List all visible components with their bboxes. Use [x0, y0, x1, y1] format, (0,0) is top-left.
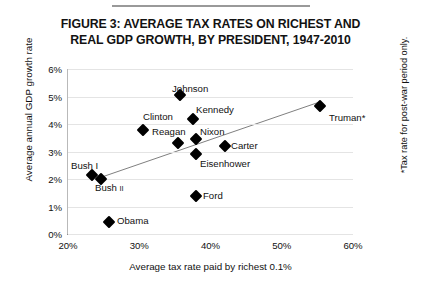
point-label-carter: Carter	[231, 140, 258, 151]
x-tick-label: 30%	[130, 240, 149, 251]
x-tick-label: 40%	[201, 240, 220, 251]
figure-title: FIGURE 3: AVERAGE TAX RATES ON RICHEST A…	[20, 16, 401, 48]
x-tick-label: 50%	[272, 240, 291, 251]
gridline-y-4	[68, 124, 353, 125]
footnote-post-war: *Tax rate for post-war period only.	[399, 25, 409, 185]
gridline-y-1	[68, 207, 353, 208]
point-label-ford: Ford	[203, 190, 223, 201]
gridline-y-6	[68, 69, 353, 70]
y-tick-label: 4%	[36, 119, 62, 130]
y-tick-label: 0%	[36, 229, 62, 240]
x-axis-title: Average tax rate paid by richest 0.1%	[68, 261, 353, 272]
y-tick-label: 3%	[36, 146, 62, 157]
top-divider-rule	[112, 5, 310, 7]
point-label-bush-ii: Bush II	[95, 182, 124, 194]
figure-3-chart: FIGURE 3: AVERAGE TAX RATES ON RICHEST A…	[0, 0, 421, 288]
gridline-y-3	[68, 152, 353, 153]
y-tick-label: 1%	[36, 201, 62, 212]
y-axis-title: Average annual GDP growth rate	[23, 30, 34, 190]
gridline-y-0	[68, 234, 353, 235]
y-tick-label: 2%	[36, 174, 62, 185]
y-tick-label: 6%	[36, 64, 62, 75]
x-tick-label: 20%	[58, 240, 77, 251]
gridline-y-5	[68, 97, 353, 98]
figure-title-line-1: FIGURE 3: AVERAGE TAX RATES ON RICHEST A…	[20, 16, 401, 32]
point-label-kennedy: Kennedy	[196, 104, 234, 115]
y-axis-tick-labels: 0%1%2%3%4%5%6%	[36, 69, 62, 234]
x-tick-label: 60%	[343, 240, 362, 251]
figure-title-line-2: REAL GDP GROWTH, BY PRESIDENT, 1947-2010	[20, 32, 401, 48]
point-label-truman: Truman*	[329, 112, 365, 123]
y-tick-label: 5%	[36, 91, 62, 102]
point-label-reagan: Reagan	[152, 126, 186, 137]
point-label-obama: Obama	[117, 215, 148, 226]
plot-area	[68, 69, 353, 234]
point-label-eisenhower: Eisenhower	[200, 158, 250, 169]
x-axis-tick-labels: 20%30%40%50%60%	[68, 240, 353, 254]
point-label-nixon: Nixon	[200, 126, 225, 137]
point-label-bush-i: Bush I	[71, 160, 98, 171]
point-label-johnson: Johnson	[172, 83, 208, 94]
gridline-y-2	[68, 179, 353, 180]
point-label-clinton: Clinton	[143, 111, 173, 122]
